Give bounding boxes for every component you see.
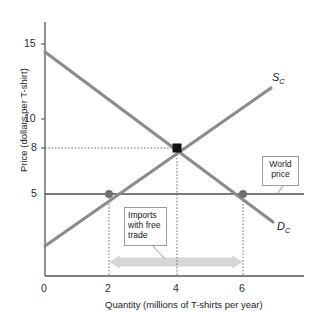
world-price-line-1: World: [266, 159, 295, 169]
xtick-0: 0: [41, 283, 47, 294]
imports-line-1: Imports: [128, 210, 163, 220]
xtick-6: 6: [239, 283, 245, 294]
xtick-4: 4: [173, 283, 179, 294]
supply-curve-label: SC: [272, 72, 285, 86]
imports-span-arrow: [109, 256, 243, 269]
imports-line-3: trade: [128, 230, 163, 240]
supply-curve-label-sub: C: [279, 77, 284, 86]
ytick-8: 8: [31, 142, 37, 153]
marker-domestic-demand: [239, 190, 247, 198]
x-axis-title: Quantity (millions of T-shirts per year): [105, 300, 263, 310]
ytick-15: 15: [24, 38, 36, 49]
supply-demand-chart: 15 10 8 5 0 2 4 6 Price (dollars per T-s…: [0, 0, 316, 317]
world-price-callout: World price: [262, 156, 299, 186]
y-axis-title: Price (dollars per T-shirt): [18, 68, 29, 172]
demand-curve-label: DC: [277, 221, 290, 235]
ytick-5: 5: [31, 188, 37, 199]
demand-curve: [45, 52, 273, 222]
marker-domestic-supply: [105, 190, 113, 198]
demand-curve-label-main: D: [277, 220, 285, 232]
marker-equilibrium: [173, 144, 182, 153]
imports-leader: [152, 245, 165, 259]
xtick-2: 2: [105, 283, 111, 294]
demand-curve-label-sub: C: [285, 226, 290, 235]
imports-line-2: with free: [128, 220, 163, 230]
imports-callout: Imports with free trade: [124, 207, 167, 246]
world-price-leader: [277, 186, 283, 194]
world-price-line-2: price: [266, 169, 295, 179]
